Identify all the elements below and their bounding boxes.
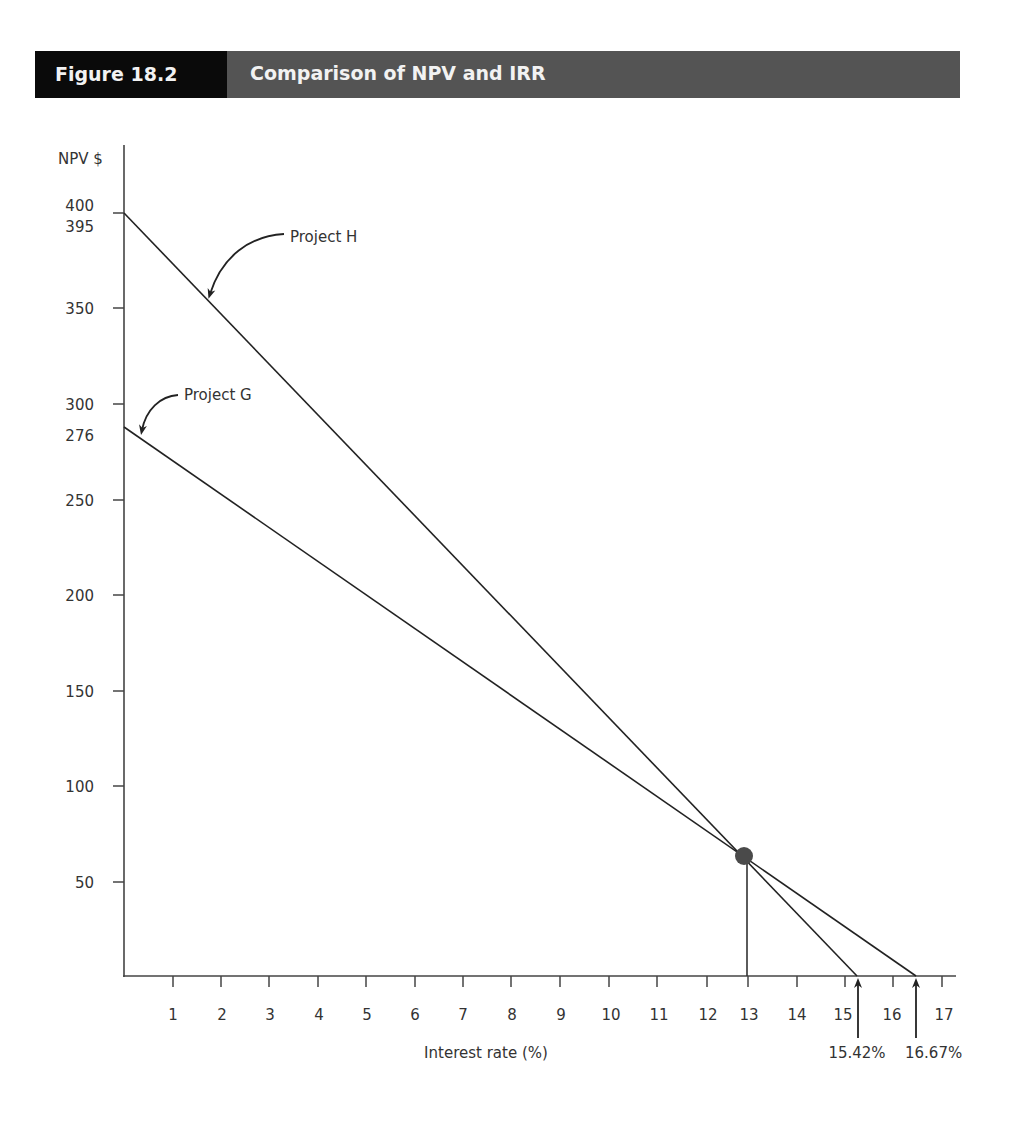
x-label: 9 xyxy=(556,1006,566,1024)
x-label: 13 xyxy=(739,1006,758,1024)
project-h-label: Project H xyxy=(290,228,357,246)
y-label: 276 xyxy=(65,427,94,445)
y-label: 300 xyxy=(65,396,94,414)
x-label: 14 xyxy=(787,1006,806,1024)
y-label: 400 xyxy=(65,197,94,215)
y-tick-labels: 400 395 350 300 276 250 200 150 100 50 xyxy=(65,197,94,892)
npv-irr-chart: NPV $ 400 395 350 300 276 250 200 150 10… xyxy=(0,0,1009,1123)
x-label: 4 xyxy=(314,1006,324,1024)
x-axis-title: Interest rate (%) xyxy=(424,1044,548,1062)
project-g-label: Project G xyxy=(184,386,252,404)
irr-h-label: 15.42% xyxy=(828,1044,885,1062)
x-label: 8 xyxy=(507,1006,517,1024)
project-g-line xyxy=(124,427,916,976)
irr-g-label: 16.67% xyxy=(905,1044,962,1062)
y-label: 100 xyxy=(65,778,94,796)
x-label: 5 xyxy=(362,1006,372,1024)
project-h-callout-arrow-icon xyxy=(210,234,284,294)
y-label: 350 xyxy=(65,300,94,318)
x-label: 10 xyxy=(601,1006,620,1024)
x-tick-labels: 1 2 3 4 5 6 7 8 9 10 11 12 13 14 15 16 1… xyxy=(168,1006,953,1024)
x-label: 2 xyxy=(217,1006,227,1024)
x-label: 3 xyxy=(265,1006,275,1024)
project-g-callout-arrow-icon xyxy=(142,395,178,430)
x-label: 12 xyxy=(698,1006,717,1024)
x-ticks xyxy=(173,976,942,987)
x-label: 15 xyxy=(833,1006,852,1024)
y-label: 50 xyxy=(75,874,94,892)
y-label: 150 xyxy=(65,683,94,701)
y-ticks xyxy=(113,213,124,882)
x-label: 11 xyxy=(649,1006,668,1024)
x-label: 16 xyxy=(882,1006,901,1024)
x-label: 1 xyxy=(168,1006,178,1024)
y-label: 200 xyxy=(65,587,94,605)
x-label: 7 xyxy=(458,1006,468,1024)
y-label: 250 xyxy=(65,492,94,510)
y-label: 395 xyxy=(65,218,94,236)
x-label: 17 xyxy=(934,1006,953,1024)
crossover-point xyxy=(735,847,753,865)
x-label: 6 xyxy=(410,1006,420,1024)
y-axis-title: NPV $ xyxy=(58,150,103,168)
